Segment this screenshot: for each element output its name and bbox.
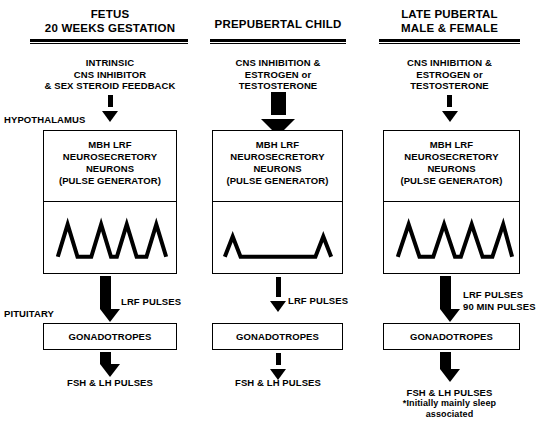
stimulus-line-3: & SEX STEROID FEEDBACK [10, 80, 210, 92]
fetus-waveform [44, 202, 176, 273]
header-rule [379, 39, 520, 44]
header-rule [210, 39, 346, 44]
column-fetus-header: FETUS 20 WEEKS GESTATION [10, 8, 210, 35]
stimulus-text: CNS INHIBITION & ESTROGEN or TESTOSTERON… [363, 57, 536, 92]
stimulus-line-2: ESTROGEN or [204, 69, 352, 81]
stimulus-line-1: CNS INHIBITION & [204, 57, 352, 69]
gonadotropes-box: GONADOTROPES [212, 323, 343, 350]
gonadotropes-box: GONADOTROPES [43, 323, 177, 350]
hypothalamus-box-line-2: NEUROSECRETORY [384, 151, 519, 163]
gonadotropes-label: GONADOTROPES [236, 331, 319, 343]
lrf-caption-line-1: LRF PULSES [288, 295, 348, 307]
fsh-lh-pulses-caption: FSH & LH PULSES [10, 377, 210, 388]
hypothalamus-box-line-2: NEUROSECRETORY [44, 151, 176, 163]
hypothalamus-box-line-4: (PULSE GENERATOR) [384, 175, 519, 187]
lrf-caption-line-1: LRF PULSES [121, 296, 181, 308]
header-line-1: FETUS [10, 8, 210, 22]
lrf-pulse-arrow-solid-icon [440, 276, 460, 322]
hypothalamus-box-line-1: MBH LRF [44, 139, 176, 151]
stimulus-line-3: TESTOSTERONE [363, 80, 536, 92]
hypothalamus-box: MBH LRF NEUROSECRETORY NEURONS (PULSE GE… [212, 130, 343, 202]
header-rule [30, 39, 188, 44]
hypothalamus-box-line-3: NEURONS [44, 163, 176, 175]
lrf-caption-line-1: LRF PULSES [463, 289, 536, 301]
output-arrow-dotted-icon [270, 353, 286, 380]
lrf-pulse-arrow-dotted-icon [270, 277, 286, 312]
output-caption-text: FSH & LH PULSES [204, 377, 352, 388]
header-line-1: PREPUBERTAL CHILD [204, 18, 352, 32]
hypothalamic-pituitary-diagram: HYPOTHALAMUS PITUITARY FETUS 20 WEEKS GE… [0, 0, 536, 424]
gonadotropes-label: GONADOTROPES [410, 331, 493, 343]
lrf-pulses-caption: LRF PULSES [121, 296, 181, 308]
column-prepubertal-child: PREPUBERTAL CHILD CNS INHIBITION & ESTRO… [204, 0, 352, 424]
hypothalamus-box-line-3: NEURONS [213, 163, 342, 175]
prepubertal-waveform-box [212, 201, 343, 274]
hypothalamus-box: MBH LRF NEUROSECRETORY NEURONS (PULSE GE… [383, 130, 520, 202]
stimulus-line-1: INTRINSIC [10, 57, 210, 69]
late-pubertal-waveform [384, 202, 519, 273]
hypothalamus-box-line-4: (PULSE GENERATOR) [213, 175, 342, 187]
header-line-2: 20 WEEKS GESTATION [10, 22, 210, 36]
stimulus-text: CNS INHIBITION & ESTROGEN or TESTOSTERON… [204, 57, 352, 92]
lrf-pulse-arrow-solid-icon [100, 276, 120, 322]
stimulus-line-2: ESTROGEN or [363, 69, 536, 81]
hypothalamus-box-line-4: (PULSE GENERATOR) [44, 175, 176, 187]
hypothalamus-box-line-3: NEURONS [384, 163, 519, 175]
column-late-pubertal-header: LATE PUBERTAL MALE & FEMALE [363, 8, 536, 35]
hypothalamus-box-line-2: NEUROSECRETORY [213, 151, 342, 163]
column-late-pubertal: LATE PUBERTAL MALE & FEMALE CNS INHIBITI… [363, 0, 536, 424]
prepubertal-waveform [213, 202, 342, 273]
fsh-lh-pulses-caption: FSH & LH PULSES [204, 377, 352, 388]
output-caption-text: FSH & LH PULSES [10, 377, 210, 388]
stimulus-line-3: TESTOSTERONE [204, 80, 352, 92]
stimulus-line-1: CNS INHIBITION & [363, 57, 536, 69]
output-note-line-1: *Initially mainly sleep [363, 398, 536, 409]
gonadotropes-box: GONADOTROPES [383, 323, 520, 350]
hypothalamus-box-line-1: MBH LRF [213, 139, 342, 151]
stimulus-arrow-dotted-icon [442, 95, 458, 122]
output-caption-text: FSH & LH PULSES [363, 387, 536, 398]
header-line-2: MALE & FEMALE [363, 22, 536, 36]
hypothalamus-box-line-1: MBH LRF [384, 139, 519, 151]
header-line-1: LATE PUBERTAL [363, 8, 536, 22]
fetus-waveform-box [43, 201, 177, 274]
gonadotropes-label: GONADOTROPES [68, 331, 151, 343]
column-fetus: FETUS 20 WEEKS GESTATION INTRINSIC CNS I… [10, 0, 210, 424]
stimulus-arrow-dotted-icon [102, 95, 118, 122]
stimulus-line-2: CNS INHIBITOR [10, 69, 210, 81]
output-arrow-solid-icon [100, 352, 120, 377]
output-note-line-2: associated [363, 409, 536, 420]
lrf-pulses-caption: LRF PULSES 90 MIN PULSES [463, 289, 536, 312]
late-pubertal-waveform-box [383, 201, 520, 274]
fsh-lh-pulses-caption: FSH & LH PULSES *Initially mainly sleep … [363, 387, 536, 419]
column-prepubertal-header: PREPUBERTAL CHILD [204, 18, 352, 32]
lrf-caption-line-2: 90 MIN PULSES [463, 301, 536, 313]
hypothalamus-box: MBH LRF NEUROSECRETORY NEURONS (PULSE GE… [43, 130, 177, 202]
lrf-pulses-caption: LRF PULSES [288, 295, 348, 307]
output-arrow-solid-icon [440, 352, 460, 382]
stimulus-text: INTRINSIC CNS INHIBITOR & SEX STEROID FE… [10, 57, 210, 92]
